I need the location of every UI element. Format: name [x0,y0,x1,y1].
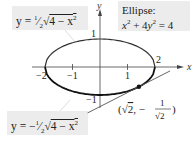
y-tick-label: 1 [91,28,96,39]
x-tick-label: −2 [36,70,47,81]
y-axis-label: y [96,0,102,11]
ellipse-plot: x y −2 −1 1 2 1 −1 (√2, − 1 √2 ) [0,0,195,141]
lower-callout-line [60,100,70,111]
point-label-denominator: √2 [155,111,164,121]
point-label: (√2, − [118,103,145,116]
x-axis-arrow-icon [177,65,184,69]
x-tick-label: −1 [67,70,78,81]
point-label-numerator: 1 [160,98,165,108]
point-label-close-paren: ) [172,103,176,116]
tangent-point [137,85,141,89]
x-tick-label: 2 [156,54,161,65]
x-axis-label: x [186,61,192,72]
x-tick-label: 1 [125,70,130,81]
upper-callout-line [65,30,75,42]
